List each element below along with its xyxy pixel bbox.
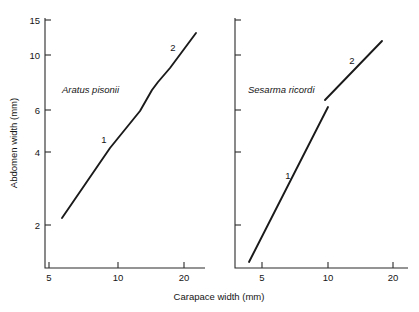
x-tick-label-5: 5 — [46, 272, 51, 283]
y-axis-title: Abdomen width (mm) — [8, 98, 19, 188]
x-tick-label-10: 10 — [113, 272, 124, 283]
allometry-figure: 15 10 6 4 2 5 10 20 Aratus pisonii 1 2 — [0, 0, 419, 312]
figure-background — [0, 0, 419, 312]
right-panel-species-label: Sesarma ricordi — [248, 84, 315, 95]
x-tick-label-20: 20 — [179, 272, 190, 283]
y-tick-label-10: 10 — [29, 50, 40, 61]
right-panel-phase-1-label: 1 — [285, 170, 290, 181]
y-tick-label-2: 2 — [35, 220, 40, 231]
figure-canvas: 15 10 6 4 2 5 10 20 Aratus pisonii 1 2 — [0, 0, 419, 312]
y-tick-label-15: 15 — [29, 15, 40, 26]
x-tick-label-20: 20 — [388, 272, 399, 283]
left-panel-phase-2-label: 2 — [170, 42, 175, 53]
x-tick-label-10: 10 — [323, 272, 334, 283]
left-panel-phase-1-label: 1 — [101, 134, 106, 145]
right-panel-phase-2-label: 2 — [349, 55, 354, 66]
left-panel-species-label: Aratus pisonii — [61, 84, 120, 95]
y-tick-label-6: 6 — [35, 105, 40, 116]
y-tick-label-4: 4 — [35, 147, 40, 158]
x-axis-title: Carapace width (mm) — [174, 291, 265, 302]
x-tick-label-5: 5 — [259, 272, 264, 283]
